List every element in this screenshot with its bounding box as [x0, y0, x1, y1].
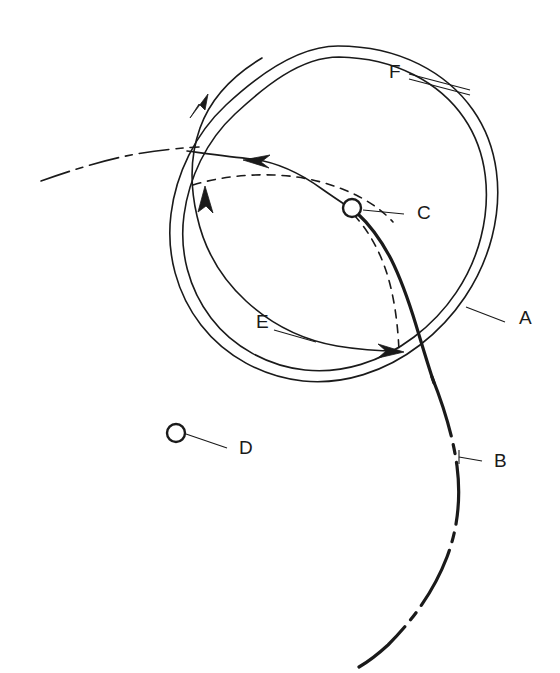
node-marker-D	[167, 424, 185, 442]
inner-circular-orbit-line	[183, 57, 487, 371]
arrowheads-group	[190, 94, 404, 358]
dash-dot-trajectory-upper-left	[41, 147, 199, 181]
outer-circular-orbit-group	[170, 46, 498, 382]
spiral-arrow-left-up-icon	[198, 186, 213, 213]
figure-container: A B C D E F	[0, 0, 560, 673]
labels-group: A B C D E F	[239, 61, 532, 471]
leader-line-D	[186, 434, 227, 448]
label-D: D	[239, 437, 253, 458]
inner-circular-orbit-group	[183, 57, 487, 371]
leader-line-F-lower	[409, 79, 470, 95]
leader-line-E	[274, 330, 316, 342]
leader-line-B	[459, 457, 482, 461]
leader-line-A	[466, 307, 505, 322]
solid-transfer-curve-lower-thick	[357, 213, 434, 383]
solid-transfer-curve-upper	[187, 151, 347, 206]
dash-dot-trajectory-lower-right	[359, 377, 459, 667]
inner-spiral-arc	[192, 58, 398, 351]
node-marker-C	[343, 199, 361, 217]
dash-dot-trajectory-upper-left-group	[41, 147, 199, 181]
label-F: F	[389, 61, 401, 82]
outer-circular-orbit-line	[170, 46, 498, 382]
dashed-transfer-arc	[193, 175, 393, 222]
label-B: B	[494, 450, 507, 471]
dashed-transfer-arc-group	[193, 175, 399, 351]
label-E: E	[256, 311, 269, 332]
label-C: C	[417, 202, 431, 223]
inner-spiral-group	[192, 58, 398, 351]
technical-diagram-svg: A B C D E F	[0, 0, 560, 673]
leader-lines-group	[186, 74, 505, 464]
label-A: A	[519, 307, 532, 328]
dash-dot-trajectory-lower-right-group	[359, 377, 459, 667]
